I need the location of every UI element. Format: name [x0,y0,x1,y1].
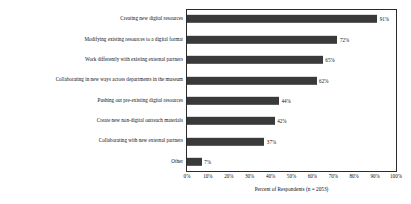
bar [187,36,337,44]
bar-row: Pushing out pre-existing digital resourc… [0,91,411,111]
x-axis-tick-label: 80% [350,173,359,179]
bar-track: 44% [187,91,411,111]
bar-row: Modifying existing resources to a digita… [0,29,411,49]
category-label: Modifying existing resources to a digita… [84,37,183,43]
x-axis-ticks: 0%10%20%30%40%50%60%70%80%90%100% [187,173,396,185]
bar-track: 72% [187,29,411,49]
bar-value-label: 44% [281,98,290,104]
x-axis-title: Percent of Respondents (n = 2053) [187,186,396,192]
bar-value-label: 65% [325,57,334,63]
bar-track: 62% [187,70,411,90]
bar-track: 42% [187,111,411,131]
x-axis-tick-label: 70% [329,173,338,179]
category-label: Other [171,159,183,165]
bar-value-label: 37% [267,138,276,144]
bar-row: Create new non-digital outreach material… [0,111,411,131]
bar-row: Creating new digital resources91% [0,9,411,29]
bar-track: 91% [187,9,411,29]
bar-track: 37% [187,131,411,151]
x-axis-tick-label: 10% [203,173,212,179]
x-axis-tick-label: 90% [370,173,379,179]
bar [187,158,202,166]
category-label: Create new non-digital outreach material… [97,118,183,124]
bar-row: Collaborating in new ways across departm… [0,70,411,90]
x-axis-tick-label: 0% [184,173,191,179]
x-axis-tick-label: 50% [287,173,296,179]
bar-row: Other7% [0,152,411,172]
category-label: Collaborating in new ways across departm… [56,78,183,84]
bar-value-label: 72% [340,37,349,43]
x-axis-tick-label: 60% [308,173,317,179]
category-label: Creating new digital resources [120,16,183,22]
bar [187,117,275,125]
bar-track: 7% [187,152,411,172]
bar [187,56,323,64]
bar-row: Work differently with existing external … [0,50,411,70]
bar-value-label: 42% [277,118,286,124]
bar-value-label: 62% [319,77,328,83]
bar-chart: Creating new digital resources91%Modifyi… [0,0,411,204]
x-axis-tick-label: 100% [390,173,402,179]
x-axis-tick-label: 30% [245,173,254,179]
bar [187,137,264,145]
category-label: Pushing out pre-existing digital resourc… [98,98,183,104]
bar [187,97,279,105]
bar [187,15,377,23]
bar [187,76,317,84]
bar-value-label: 7% [204,159,211,165]
x-axis-tick-label: 40% [266,173,275,179]
category-label: Work differently with existing external … [85,57,183,63]
category-label: Collaborating with new external partners [99,139,183,145]
bar-track: 65% [187,50,411,70]
bar-row: Collaborating with new external partners… [0,131,411,151]
x-axis-tick-label: 20% [224,173,233,179]
bar-value-label: 91% [380,16,389,22]
